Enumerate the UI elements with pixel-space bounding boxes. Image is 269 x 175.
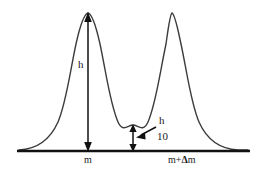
peak-height-arrow-head-up [84,12,92,22]
valley-height-numerator-label: h [159,115,165,126]
valley-pointer-arrow-head [136,132,146,139]
peak-height-label: h [78,59,84,70]
resolution-diagram-svg [0,0,269,175]
axis-tick-label-m: m [84,155,92,165]
figure-container: h h 10 m m+Δm [0,0,269,175]
axis-tick-suffix: m [188,154,196,165]
axis-tick-label-m-plus-delta-m: m+Δm [168,155,195,165]
axis-tick-prefix: m+ [168,154,181,165]
valley-height-denominator-label: 10 [157,131,168,142]
